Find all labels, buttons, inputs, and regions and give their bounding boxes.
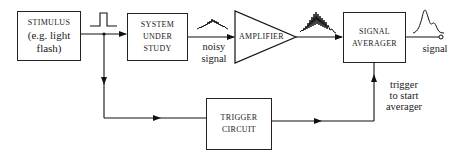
stimulus-example: (e.g. light [28,29,70,42]
noisy-signal-icon [197,19,228,29]
down-arrow-icon [101,77,107,85]
trigger-circuit-label-2: CIRCUIT [222,124,256,136]
system-label-2: UNDER [143,31,172,43]
averager-label-2: AVERAGER [352,38,397,50]
up-arrow-icon [371,74,377,82]
trigger-label-3: averager [381,101,427,112]
signal-averager-block: SIGNAL AVERAGER [343,12,406,63]
noisy-signal-label: noisy signal [196,41,232,65]
trigger-circuit-block: TRIGGER CIRCUIT [206,98,272,150]
noisy-label-2: signal [196,53,232,65]
averaged-peak-signal-icon [413,10,444,33]
system-label-1: SYSTEM [141,19,174,31]
trigger-label-1: trigger [381,79,427,90]
stimulus-example-cont: flash) [36,42,61,55]
trigger-circuit-label-1: TRIGGER [221,112,258,124]
trigger-to-start-label: trigger to start averager [381,79,427,112]
averager-label-1: SIGNAL [359,26,390,38]
right-arrow-icon [314,118,322,124]
square-pulse-icon [90,13,117,26]
stimulus-block: STIMULUS (e.g. light flash) [17,11,81,61]
stimulus-title: STIMULUS [28,17,70,29]
system-under-study-block: SYSTEM UNDER STUDY [127,13,188,61]
right-arrow-icon [153,115,161,121]
output-terminal-icon [439,35,443,39]
trigger-label-2: to start [381,90,427,101]
output-signal-label: signal [419,43,451,55]
system-label-3: STUDY [143,43,171,55]
amplified-noisy-signal-icon [300,12,336,33]
noisy-label-1: noisy [196,41,232,53]
amplifier-label: AMPLIFIER [239,32,284,41]
